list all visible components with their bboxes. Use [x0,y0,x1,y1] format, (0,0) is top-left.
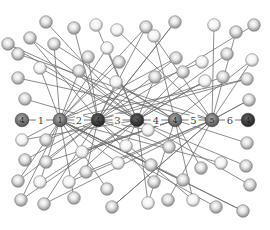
person-node [221,48,234,61]
person-node [82,51,95,64]
person-node [73,65,86,78]
chain-node-label: 4 [19,116,24,125]
chain-node-label: 1 [57,116,62,125]
person-node [19,93,32,106]
network-graph-svg: 123456 4143454 [0,0,270,230]
network-edge [212,25,214,120]
person-node [34,62,47,75]
person-node [24,32,37,45]
person-node [34,176,47,189]
person-node [101,42,114,55]
person-node [195,162,208,175]
person-node [145,159,158,172]
person-node [149,71,162,84]
person-node [142,197,155,210]
person-node [148,30,161,43]
person-node [240,160,253,173]
person-node [142,124,155,137]
chain-node-label: 4 [172,116,177,125]
person-node [111,24,124,37]
person-node [163,141,176,154]
network-edge [44,120,212,204]
person-node [215,157,228,170]
person-node [148,176,161,189]
person-node [2,38,15,51]
person-node [68,192,81,205]
person-node [101,183,114,196]
person-node [63,176,76,189]
person-node [177,66,190,79]
person-node [241,73,254,86]
network-diagram: 123456 4143454 [0,0,270,230]
person-node [19,154,32,167]
person-node [177,174,190,187]
person-node [106,201,119,214]
person-node [243,94,256,107]
network-edge [40,68,60,120]
person-node [40,156,53,169]
person-node [241,137,254,150]
network-edge [212,60,252,120]
person-node [12,175,25,188]
person-node [248,19,261,32]
person-node [210,201,223,214]
person-node [246,54,259,67]
person-node [112,157,125,170]
person-node [16,134,29,147]
chain-node-label: 4 [95,116,100,125]
degree-label: 1 [38,115,44,126]
person-node [38,198,51,211]
person-node [76,146,89,159]
person-node [169,16,182,29]
person-node [199,75,212,88]
person-node [217,71,230,84]
person-node [68,22,81,35]
person-node [230,26,243,39]
degree-label: 4 [153,115,159,126]
person-node [110,76,123,89]
person-node [237,205,250,218]
person-node [12,48,25,61]
network-edge [18,120,60,181]
person-node [208,19,221,32]
degree-label: 5 [190,115,196,126]
person-node [196,56,209,69]
person-node [40,16,53,29]
chain-node-label: 3 [134,116,139,125]
person-node [15,194,28,207]
network-edge [98,58,176,120]
degree-label: 3 [114,115,120,126]
person-node [244,179,257,192]
person-node [48,38,61,51]
person-node [90,19,103,32]
person-node [12,72,25,85]
person-node [113,56,126,69]
chain-node-label: 5 [209,116,214,125]
degree-label: 2 [76,115,82,126]
person-node [162,194,175,207]
person-node [40,134,53,147]
person-node [80,166,93,179]
person-node [120,140,133,153]
person-node [187,194,200,207]
chain-node-label: 4 [245,116,250,125]
person-node [170,52,183,65]
degree-label: 6 [227,115,233,126]
